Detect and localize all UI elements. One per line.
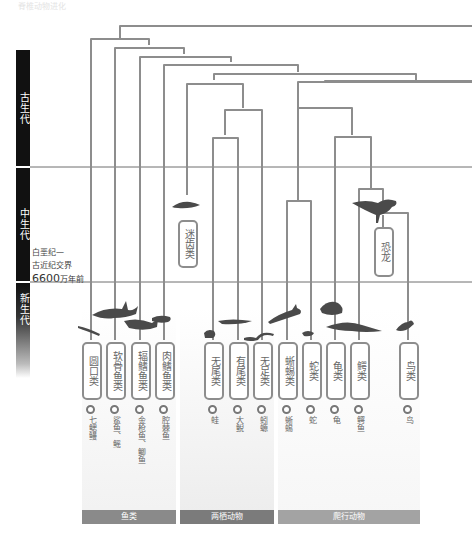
- clade-label: 蜥蜴类: [282, 356, 294, 386]
- example-giant-salamander: 大鲵: [233, 416, 243, 432]
- clade-label: 鳄类: [354, 361, 366, 381]
- clade-box-anura[interactable]: 无尾类: [204, 342, 224, 400]
- clade-box-chondrichthyes[interactable]: 软骨鱼类: [106, 342, 126, 400]
- example-lizard: 蜥蜴: [282, 416, 292, 432]
- clade-label: 鸟类: [403, 361, 415, 381]
- clade-label: 辐鳍鱼类: [135, 351, 147, 391]
- circle-marker-icon: [354, 405, 363, 414]
- animal-illustrations: [0, 0, 472, 536]
- circle-marker-icon: [110, 405, 119, 414]
- clade-label: 圆口类: [86, 356, 98, 386]
- clade-box-cyclostomes[interactable]: 圆口类: [82, 342, 102, 400]
- group-bar-reptiles: 爬行动物: [278, 510, 420, 524]
- clade-box-lizards[interactable]: 蜥蜴类: [278, 342, 298, 400]
- clade-label: 有尾类: [233, 356, 245, 386]
- trex-icon: [352, 199, 397, 223]
- clade-box-caudata[interactable]: 有尾类: [229, 342, 249, 400]
- clade-label: 无尾类: [208, 356, 220, 386]
- circle-marker-icon: [208, 405, 217, 414]
- example-caecilian: 蚓螈: [257, 416, 267, 432]
- circle-marker-icon: [282, 405, 291, 414]
- lizard-icon: [268, 304, 301, 324]
- circle-marker-icon: [86, 405, 95, 414]
- circle-marker-icon: [257, 405, 266, 414]
- clade-box-snakes[interactable]: 蛇类: [302, 342, 322, 400]
- clade-box-dinosaurs[interactable]: 恐龙: [374, 227, 394, 277]
- circle-marker-icon: [330, 405, 339, 414]
- clade-box-crocodiles[interactable]: 鳄类: [350, 342, 370, 400]
- circle-marker-icon: [233, 405, 242, 414]
- coelacanth-icon: [152, 316, 171, 323]
- clade-box-gymnophiona[interactable]: 无足类: [253, 342, 273, 400]
- cladogram-canvas: 脊椎动物进化 古生代 中生代 新生代 白垩纪— 古近纪交界 6600万年前: [0, 0, 472, 536]
- labyrinthodont-icon: [172, 202, 200, 208]
- clade-box-turtles[interactable]: 龟类: [326, 342, 346, 400]
- clade-label: 无足类: [257, 356, 269, 386]
- example-bird: 鸟: [403, 416, 413, 424]
- clade-box-labyrinthodontia[interactable]: 迷齿类: [178, 220, 198, 268]
- circle-marker-icon: [306, 405, 315, 414]
- example-crocodile: 鳄鱼: [354, 416, 364, 432]
- example-frog: 蛙: [208, 416, 218, 424]
- caecilian-icon: [244, 333, 274, 341]
- frog-icon: [204, 330, 215, 338]
- clade-box-sarcopterygii[interactable]: 肉鳍鱼类: [155, 342, 175, 400]
- example-coelacanth: 腔棘鱼: [159, 416, 169, 440]
- clade-box-birds[interactable]: 鸟类: [399, 342, 419, 400]
- turtle-icon: [320, 302, 343, 315]
- snake-icon: [302, 322, 314, 336]
- clade-box-actinopterygii[interactable]: 辐鳍鱼类: [131, 342, 151, 400]
- lamprey-icon: [78, 326, 100, 336]
- group-bar-fish: 鱼类: [82, 510, 176, 524]
- bird-icon: [396, 320, 414, 331]
- circle-marker-icon: [159, 405, 168, 414]
- salamander-icon: [218, 320, 252, 325]
- example-shark-ray: 鲨鱼、鳐: [110, 416, 120, 448]
- example-turtle: 龟: [330, 416, 340, 424]
- shark-icon: [92, 301, 138, 319]
- circle-marker-icon: [403, 405, 412, 414]
- clade-label: 蛇类: [306, 361, 318, 381]
- crocodile-icon: [326, 322, 382, 332]
- clade-label: 软骨鱼类: [110, 351, 122, 391]
- group-bar-amphibians: 两栖动物: [180, 510, 274, 524]
- clade-label: 迷齿类: [182, 229, 194, 259]
- example-snake: 蛇: [306, 416, 316, 424]
- clade-label: 恐龙: [378, 242, 390, 262]
- clade-label: 龟类: [330, 361, 342, 381]
- example-tuna-carp: 金枪鱼、鲫鱼: [135, 416, 145, 464]
- circle-marker-icon: [135, 405, 144, 414]
- clade-label: 肉鳍鱼类: [159, 351, 171, 391]
- example-lamprey: 七鳃鳗: [86, 416, 96, 440]
